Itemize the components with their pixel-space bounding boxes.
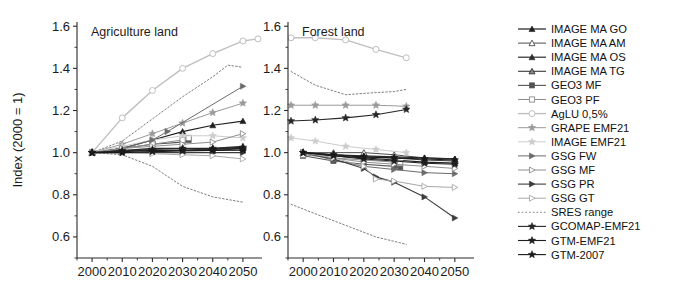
legend-item-gsg-pr[interactable]: GSG PR [518,178,595,190]
series-marker [422,170,428,176]
legend-item-gsg-gt[interactable]: GSG GT [518,192,595,204]
legend-item-image-ma-os[interactable]: IMAGE MA OS [518,51,626,63]
panel-forest: 0.60.81.01.21.41.62000201020202030204020… [263,19,474,279]
series-marker [528,223,535,230]
x-tick-label: 2050 [228,264,257,279]
legend-item-aglu-0-5-[interactable]: AgLU 0,5% [518,108,608,120]
legend-item-gtm-2007[interactable]: GTM-2007 [518,249,604,261]
legend-item-gsg-mf[interactable]: GSG MF [518,164,595,176]
x-tick-label: 2010 [108,264,137,279]
series-path [92,153,243,159]
series-marker [288,35,294,41]
series-marker [452,171,458,177]
legend-item-gsg-fw[interactable]: GSG FW [518,150,597,162]
legend-item-sres-range[interactable]: SRES range [518,206,613,218]
series-grape-emf21 [287,101,410,109]
y-tick-label: 1.2 [52,103,70,118]
series-marker [529,97,534,102]
legend-label: GSG MF [551,164,595,176]
legend-label: GTM-EMF21 [551,235,616,247]
panel-title-forest: Forest land [302,25,365,39]
legend-label: IMAGE MA AM [551,37,626,49]
series-path [291,105,406,106]
legend-item-geo3-pf[interactable]: GEO3 PF [518,94,600,106]
legend: IMAGE MA GOIMAGE MA AMIMAGE MA OSIMAGE M… [518,23,641,261]
series-marker [342,114,349,121]
y-tick-label: 0.6 [52,229,70,244]
legend-label: GCOMAP-EMF21 [551,220,641,232]
series-marker [180,65,186,71]
y-tick-label: 1.4 [263,61,281,76]
y-tick-label: 1.6 [52,19,70,34]
legend-label: GSG GT [551,192,595,204]
y-tick-label: 1.2 [263,103,281,118]
x-tick-label: 2020 [138,264,167,279]
series-marker [529,181,535,187]
x-tick-label: 2050 [440,264,469,279]
legend-item-image-emf21[interactable]: IMAGE EMF21 [518,136,626,148]
series-marker [529,167,535,173]
legend-label: SRES range [551,206,613,218]
legend-label: IMAGE MA OS [551,51,626,63]
x-tick-label: 2000 [78,264,107,279]
series-marker [529,195,535,201]
legend-item-image-ma-go[interactable]: IMAGE MA GO [518,23,627,35]
x-tick-label: 2040 [198,264,227,279]
sres-range-lower [291,204,406,244]
legend-label: IMAGE EMF21 [551,136,626,148]
series-marker [529,83,534,88]
x-tick-label: 2010 [319,264,348,279]
series-marker [529,111,535,117]
series-marker [255,36,261,42]
series-marker [312,137,319,144]
legend-item-image-ma-am[interactable]: IMAGE MA AM [518,37,626,49]
series-path [291,109,406,121]
series-marker [210,139,216,145]
series-marker [240,156,246,162]
x-tick-label: 2020 [349,264,378,279]
legend-item-geo3-mf[interactable]: GEO3 MF [518,79,602,91]
series-marker [528,124,535,131]
legend-label: GSG PR [551,178,595,190]
series-marker [312,116,319,123]
legend-item-gcomap-emf21[interactable]: GCOMAP-EMF21 [518,220,641,232]
series-marker [372,146,379,153]
y-tick-label: 0.8 [52,187,70,202]
series-marker [342,101,349,108]
series-marker [312,101,319,108]
y-tick-label: 1.6 [263,19,281,34]
series-marker [403,149,410,156]
series-marker [342,142,349,149]
series-marker [165,129,171,135]
series-path [92,39,258,153]
x-tick-label: 2000 [289,264,318,279]
series-group [88,36,261,202]
legend-label: IMAGE MA GO [551,23,627,35]
series-marker [372,101,379,108]
series-marker [149,87,155,93]
series-marker [372,111,379,118]
legend-item-image-ma-tg[interactable]: IMAGE MA TG [518,65,625,77]
series-marker [452,215,458,221]
series-marker [239,99,246,106]
series-marker [209,132,216,139]
legend-item-gtm-emf21[interactable]: GTM-EMF21 [518,235,616,247]
legend-item-grape-emf21[interactable]: GRAPE EMF21 [518,122,629,134]
series-marker [209,109,216,116]
series-marker [403,55,409,61]
series-marker [452,184,458,190]
series-marker [529,153,535,159]
legend-label: AgLU 0,5% [551,108,608,120]
series-marker [240,38,246,44]
y-tick-label: 0.8 [263,187,281,202]
legend-label: GRAPE EMF21 [551,122,629,134]
figure-root: 0.60.81.01.21.41.62000201020202030204020… [0,0,696,287]
panel-title-agriculture: Agriculture land [91,25,178,39]
series-marker [528,251,535,258]
sres-range-lower [92,153,243,203]
legend-label: GTM-2007 [551,249,604,261]
legend-label: GEO3 MF [551,79,602,91]
series-marker [373,46,379,52]
series-marker [528,237,535,244]
sres-range-upper [291,72,406,95]
